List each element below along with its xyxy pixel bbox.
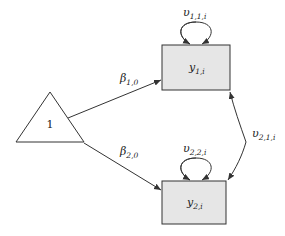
path-beta-1-0: β1,0 (68, 72, 161, 118)
beta-1-0-label: β1,0 (119, 72, 139, 87)
node-y2: y2,i (162, 181, 226, 224)
variance-loop-y1: υ1,1,i (181, 6, 211, 44)
covariance-y1-y2: υ2,1,i (228, 92, 276, 180)
path-beta-2-0: β2,0 (84, 143, 161, 190)
constant-node: 1 (16, 92, 84, 142)
beta-2-0-label: β2,0 (119, 145, 139, 160)
variance-y2-label: υ2,2,i (183, 142, 207, 157)
node-y1: y1,i (162, 45, 230, 90)
path-diagram: 1 y1,i y2,i β1,0 β2,0 υ1,1,i υ2,2,i υ2,1… (0, 0, 285, 236)
constant-label: 1 (47, 118, 54, 131)
variance-loop-y2: υ2,2,i (181, 142, 211, 180)
covariance-label: υ2,1,i (252, 127, 276, 142)
variance-y1-label: υ1,1,i (183, 6, 207, 21)
